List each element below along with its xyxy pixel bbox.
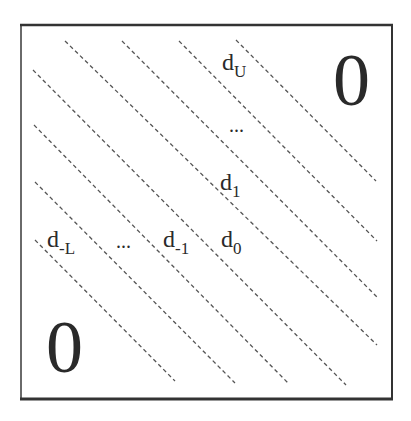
upper-zero-block: 0: [333, 39, 370, 121]
label-d-1: d1: [220, 169, 241, 201]
banded-matrix-diagram: dU ... d1 d-L ... d-1 d0 0 0: [0, 0, 411, 421]
upper-ellipsis: ...: [229, 114, 244, 136]
label-d-neg-1: d-1: [163, 226, 189, 258]
lower-ellipsis: ...: [116, 230, 131, 252]
label-d-upper: dU: [222, 49, 246, 81]
lower-zero-block: 0: [46, 306, 83, 388]
label-d-0: d0: [221, 226, 242, 258]
label-d-neg-l: d-L: [47, 226, 75, 258]
diagonal-lines: [33, 40, 377, 385]
